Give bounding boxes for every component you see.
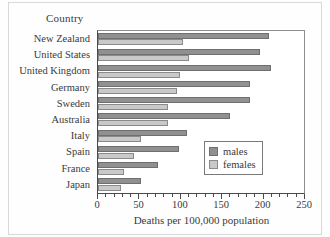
x-tick-label: 150 (213, 199, 229, 210)
x-axis-tick-labels: 050100150200250 (97, 199, 306, 213)
y-axis-label: New Zealand (0, 31, 94, 47)
y-axis-tick-labels: New ZealandUnited StatesUnited KingdomGe… (0, 31, 94, 193)
x-tick-minor (296, 194, 297, 197)
x-tick-minor (196, 194, 197, 197)
bar-group (98, 31, 305, 47)
x-tick-minor (205, 194, 206, 197)
y-axis-label: Japan (0, 177, 94, 193)
bar-chart-figure: Country New ZealandUnited StatesUnited K… (0, 0, 330, 237)
bar-females (98, 55, 189, 61)
legend-swatch-males (209, 147, 218, 156)
legend-swatch-females (209, 160, 218, 169)
legend-item-males: males (209, 145, 256, 158)
bar-group (98, 128, 305, 144)
x-tick-label: 0 (94, 199, 99, 210)
x-tick-minor (254, 194, 255, 197)
bar-females (98, 88, 177, 94)
x-tick-minor (122, 194, 123, 197)
x-tick-label: 100 (172, 199, 188, 210)
x-tick-minor (188, 194, 189, 197)
x-tick-minor (271, 194, 272, 197)
x-tick-minor (287, 194, 288, 197)
bar-group (98, 177, 305, 193)
y-axis-header: Country (46, 12, 83, 24)
y-axis-label: Sweden (0, 96, 94, 112)
x-tick-label: 200 (255, 199, 271, 210)
bar-males (98, 130, 187, 136)
x-tick-minor (279, 194, 280, 197)
x-tick-minor (172, 194, 173, 197)
bar-group (98, 161, 305, 177)
legend-item-females: females (209, 158, 256, 171)
y-axis-label: United States (0, 47, 94, 63)
y-axis-label: Italy (0, 128, 94, 144)
y-axis-label: United Kingdom (0, 63, 94, 79)
x-tick-minor (246, 194, 247, 197)
x-tick-minor (238, 194, 239, 197)
bar-females (98, 185, 121, 191)
x-tick-minor (105, 194, 106, 197)
x-tick-minor (155, 194, 156, 197)
bar-males (98, 178, 141, 184)
bar-group (98, 144, 305, 160)
y-axis-label: Australia (0, 112, 94, 128)
bar-group (98, 63, 305, 79)
bar-group (98, 47, 305, 63)
bar-females (98, 153, 134, 159)
x-tick-minor (163, 194, 164, 197)
x-tick-minor (229, 194, 230, 197)
legend-label-females: females (223, 159, 256, 170)
bar-group (98, 112, 305, 128)
y-axis-label: France (0, 161, 94, 177)
bar-group (98, 96, 305, 112)
bar-males (98, 49, 260, 55)
y-axis-label: Germany (0, 80, 94, 96)
bar-females (98, 39, 183, 45)
y-axis-label: Spain (0, 144, 94, 160)
x-axis-title: Deaths per 100,000 population (97, 214, 306, 226)
bars-layer (98, 31, 305, 193)
bar-males (98, 113, 230, 119)
bar-group (98, 80, 305, 96)
x-tick-label: 250 (296, 199, 312, 210)
x-tick-minor (130, 194, 131, 197)
x-tick-minor (114, 194, 115, 197)
bar-males (98, 162, 158, 168)
bar-males (98, 146, 179, 152)
bar-males (98, 81, 250, 87)
chart-legend: males females (204, 141, 263, 175)
bar-females (98, 104, 168, 110)
legend-label-males: males (223, 146, 248, 157)
bar-females (98, 120, 168, 126)
bar-males (98, 33, 269, 39)
x-tick-label: 50 (133, 199, 144, 210)
bar-females (98, 169, 124, 175)
bar-females (98, 136, 141, 142)
bar-males (98, 65, 271, 71)
x-tick-minor (213, 194, 214, 197)
x-tick-minor (147, 194, 148, 197)
bar-males (98, 97, 250, 103)
bar-females (98, 72, 180, 78)
